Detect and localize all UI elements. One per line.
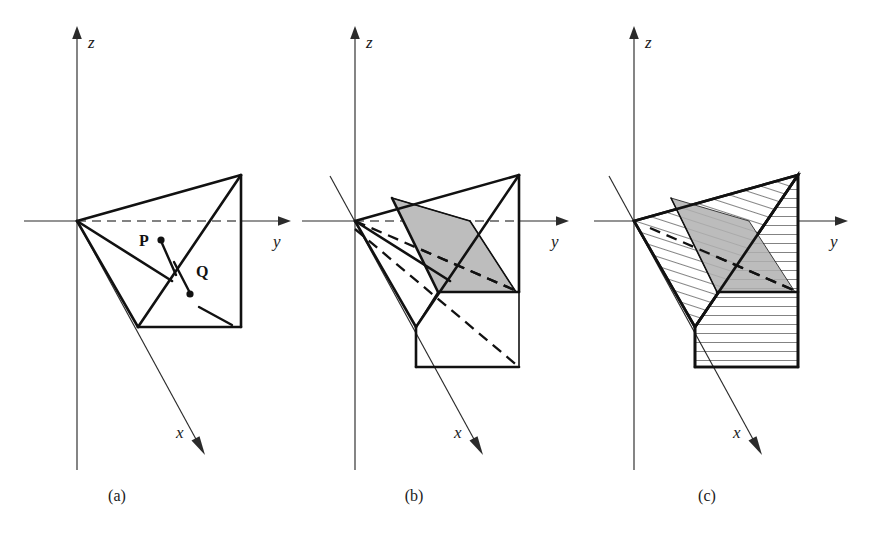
y-axis-label-b: y <box>549 232 559 251</box>
z-axis-b <box>350 26 360 470</box>
figure-root: z y x <box>0 0 887 543</box>
z-axis-c <box>629 26 639 470</box>
panel-a: z y x <box>0 0 297 543</box>
solid-body-a <box>77 175 241 327</box>
y-axis-label-c: y <box>828 232 838 251</box>
x-axis-label-a: x <box>175 423 184 442</box>
point-p-a <box>157 236 176 275</box>
panel-b: z y x <box>297 0 594 543</box>
panel-caption-a: (a) <box>108 487 126 505</box>
z-axis-label-c: z <box>644 33 652 52</box>
panel-c: z y x <box>594 0 887 543</box>
z-axis-a <box>72 26 82 470</box>
x-axis-label-c: x <box>732 423 741 442</box>
y-axis-a <box>24 216 291 226</box>
x-axis-label-b: x <box>453 423 462 442</box>
point-q-label: Q <box>196 263 208 280</box>
y-axis-label-a: y <box>271 232 281 251</box>
z-axis-label-a: z <box>87 33 95 52</box>
point-p-label: P <box>139 232 149 249</box>
panel-caption-c: (c) <box>698 487 716 505</box>
panel-caption-b: (b) <box>405 487 424 505</box>
z-axis-label-b: z <box>365 33 373 52</box>
